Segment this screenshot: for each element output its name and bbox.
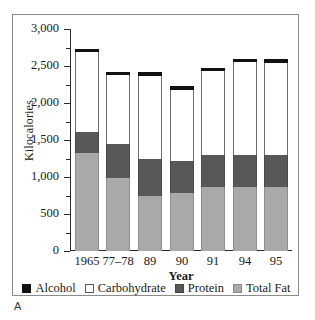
- bar-segment-protein: [75, 132, 99, 153]
- bar-89: [138, 72, 162, 251]
- y-tick-major: [64, 140, 70, 141]
- bar-segment-carbohydrate: [264, 63, 288, 155]
- bar-segment-total-fat: [264, 187, 288, 251]
- y-tick-minor: [66, 196, 70, 197]
- bar-90: [170, 86, 194, 251]
- legend-label: Alcohol: [35, 281, 75, 296]
- legend-label: Total Fat: [246, 281, 291, 296]
- bar-segment-total-fat: [106, 178, 130, 251]
- legend-label: Protein: [188, 281, 224, 296]
- legend-item-carbohydrate: Carbohydrate: [85, 281, 166, 296]
- bar-segment-protein: [201, 155, 225, 187]
- bar-95: [264, 59, 288, 251]
- legend-item-protein: Protein: [175, 281, 224, 296]
- carbohydrate-swatch-icon: [85, 284, 94, 293]
- plot-area: Kilocalories 05001,0001,5002,0002,5003,0…: [13, 15, 300, 297]
- bar-segment-carbohydrate: [201, 71, 225, 155]
- bar-segment-total-fat: [233, 187, 257, 251]
- y-tick-label: 0: [13, 243, 59, 258]
- y-tick-minor: [66, 48, 70, 49]
- bar-group: [71, 29, 292, 251]
- alcohol-swatch-icon: [22, 284, 31, 293]
- legend-item-total-fat: Total Fat: [233, 281, 291, 296]
- bar-segment-protein: [233, 155, 257, 187]
- protein-swatch-icon: [175, 284, 184, 293]
- bar-94: [233, 59, 257, 251]
- y-tick-major: [64, 251, 70, 252]
- y-tick-major: [64, 177, 70, 178]
- x-tick-label: 95: [254, 254, 298, 269]
- chart-legend: AlcoholCarbohydrateProteinTotal Fat: [13, 281, 300, 296]
- bar-segment-protein: [170, 161, 194, 193]
- y-tick-major: [64, 214, 70, 215]
- bar-91: [201, 68, 225, 251]
- y-tick-major: [64, 66, 70, 67]
- y-tick-major: [64, 103, 70, 104]
- y-tick-label: 1,500: [13, 132, 59, 147]
- y-tick-major: [64, 29, 70, 30]
- bar-segment-total-fat: [201, 187, 225, 251]
- bar-segment-protein: [264, 155, 288, 188]
- bar-segment-total-fat: [75, 153, 99, 251]
- legend-item-alcohol: Alcohol: [22, 281, 75, 296]
- panel-label: A: [14, 300, 21, 312]
- bar-segment-total-fat: [138, 196, 162, 252]
- total-fat-swatch-icon: [233, 284, 242, 293]
- y-tick-label: 500: [13, 206, 59, 221]
- bar-segment-carbohydrate: [106, 75, 130, 144]
- y-tick-label: 2,000: [13, 95, 59, 110]
- y-tick-label: 1,000: [13, 169, 59, 184]
- y-tick-label: 3,000: [13, 21, 59, 36]
- legend-label: Carbohydrate: [98, 281, 166, 296]
- bar-7778: [106, 72, 130, 251]
- y-tick-label: 2,500: [13, 58, 59, 73]
- bar-segment-carbohydrate: [233, 62, 257, 155]
- y-tick-minor: [66, 85, 70, 86]
- y-tick-minor: [66, 233, 70, 234]
- y-tick-minor: [66, 159, 70, 160]
- bar-1965: [75, 49, 99, 251]
- y-tick-minor: [66, 122, 70, 123]
- chart-frame: Kilocalories 05001,0001,5002,0002,5003,0…: [12, 14, 299, 296]
- figure: Kilocalories 05001,0001,5002,0002,5003,0…: [0, 0, 315, 320]
- bar-segment-protein: [106, 144, 130, 179]
- bar-segment-protein: [138, 159, 162, 196]
- bar-segment-carbohydrate: [75, 52, 99, 132]
- bar-segment-carbohydrate: [170, 90, 194, 162]
- bar-segment-carbohydrate: [138, 76, 162, 159]
- bar-segment-total-fat: [170, 193, 194, 251]
